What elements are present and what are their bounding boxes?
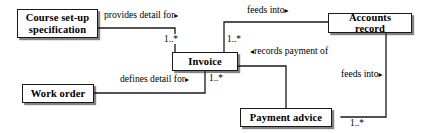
arrow-right-icon: ▸ <box>174 11 178 20</box>
arrow-right-icon: ▸ <box>379 70 383 79</box>
node-label: Course set-up specification <box>22 12 93 35</box>
edge-records-payment-of <box>238 66 286 110</box>
node-label: Payment advice <box>246 112 326 124</box>
node-work-order[interactable]: Work order <box>22 84 94 103</box>
edge-label-text: feeds into <box>341 68 379 79</box>
diagram-canvas: Course set-up specification Invoice Acco… <box>0 0 434 133</box>
node-payment-advice[interactable]: Payment advice <box>240 108 332 127</box>
node-invoice[interactable]: Invoice <box>172 52 238 71</box>
edge-label-feeds-into-payment-accounts: feeds into▸ <box>340 68 384 79</box>
edge-label-text: records payment of <box>254 45 328 56</box>
edge-label-defines-detail-for: defines detail for▸ <box>119 73 190 84</box>
edge-label-provides-detail-for: provides detail for▸ <box>103 9 179 20</box>
node-accounts-record[interactable]: Accounts record <box>328 13 412 33</box>
edge-label-text: provides detail for <box>104 9 174 20</box>
node-course-set-up-specification[interactable]: Course set-up specification <box>17 9 98 38</box>
arrow-right-icon: ▸ <box>185 75 189 84</box>
multiplicity-feeds-into-invoice-accounts: 1..* <box>226 34 242 44</box>
multiplicity-feeds-into-payment-accounts: 1..* <box>349 118 365 128</box>
multiplicity-provides-detail-for: 1..* <box>163 34 179 44</box>
edge-label-records-payment-of: ◂records payment of <box>249 45 329 56</box>
node-label: Invoice <box>184 56 225 68</box>
node-label: Accounts record <box>329 12 411 35</box>
arrow-right-icon: ▸ <box>285 6 289 15</box>
edge-label-feeds-into-invoice-accounts: feeds into▸ <box>246 4 290 15</box>
node-label: Work order <box>27 88 89 100</box>
edge-label-text: defines detail for <box>120 73 185 84</box>
multiplicity-defines-detail-for: 1..* <box>208 73 224 83</box>
edge-label-text: feeds into <box>247 4 285 15</box>
